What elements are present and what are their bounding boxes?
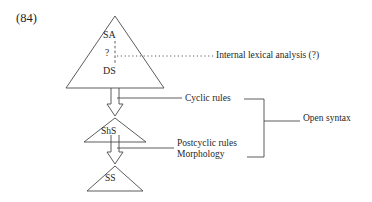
example-number: (84) (16, 12, 37, 25)
node-label-ds: DS (103, 66, 116, 77)
annotation-postcyclic-rules: Postcyclic rules (177, 139, 237, 149)
hollow-arrow-shs-to-ss (107, 135, 123, 164)
hollow-arrow-ds-to-shs (107, 88, 123, 116)
bracket-open-syntax (244, 99, 264, 157)
figure-canvas: (84) SA ? DS ShS SS Internal lexical ana… (0, 0, 372, 202)
annotation-morphology: Morphology (177, 150, 225, 160)
annotation-internal-lexical-analysis: Internal lexical analysis (?) (216, 51, 319, 61)
node-label-question-mark: ? (105, 49, 109, 59)
node-label-sa: SA (103, 30, 116, 41)
annotation-cyclic-rules: Cyclic rules (185, 94, 231, 104)
node-label-shs: ShS (101, 127, 116, 137)
node-label-ss: SS (105, 174, 116, 184)
annotation-open-syntax: Open syntax (303, 114, 351, 124)
